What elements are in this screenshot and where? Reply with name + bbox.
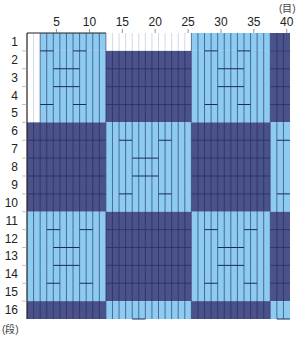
column-label: 10 <box>83 15 97 29</box>
row-label: 8 <box>11 160 18 174</box>
row-label: 7 <box>11 142 18 156</box>
row-label: 9 <box>11 178 18 192</box>
row-label: 13 <box>5 249 19 263</box>
row-labels: 12345678910111213141516 <box>5 35 27 317</box>
y-unit-label: (段) <box>2 323 19 335</box>
row-label: 11 <box>6 214 19 228</box>
row-label: 6 <box>11 124 18 138</box>
color-block <box>270 122 290 211</box>
column-label: 40 <box>280 15 294 29</box>
column-label: 30 <box>214 15 228 29</box>
color-block <box>270 33 290 51</box>
row-label: 16 <box>5 303 19 317</box>
column-labels: 510152025303540 <box>53 15 293 33</box>
row-label: 12 <box>5 232 19 246</box>
row-label: 2 <box>11 53 18 67</box>
color-block <box>270 212 290 301</box>
column-label: 20 <box>149 15 163 29</box>
row-label: 3 <box>11 71 18 85</box>
column-label: 15 <box>116 15 130 29</box>
column-label: 25 <box>181 15 195 29</box>
x-unit-label: (目) <box>279 3 296 14</box>
row-label: 4 <box>11 89 18 103</box>
row-label: 14 <box>5 267 19 281</box>
row-label: 1 <box>11 35 18 49</box>
color-block <box>270 301 290 319</box>
row-label: 10 <box>5 196 19 210</box>
column-label: 35 <box>247 15 261 29</box>
row-label: 15 <box>5 285 19 299</box>
column-label: 5 <box>53 15 60 29</box>
knitting-chart: 510152025303540 12345678910111213141516 … <box>0 0 298 341</box>
row-label: 5 <box>11 106 18 120</box>
